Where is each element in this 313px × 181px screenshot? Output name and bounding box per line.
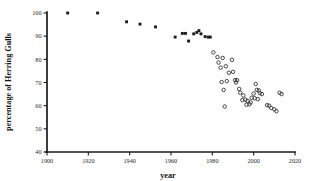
x-tick-label: 1940 (123, 157, 135, 164)
data-point-filled (154, 25, 157, 28)
x-tick-label: 1900 (41, 157, 53, 164)
data-point-filled (125, 20, 128, 23)
x-axis: 1900192019401960198020002020 (41, 152, 301, 164)
data-point-filled (204, 35, 207, 38)
data-series-layer (66, 12, 283, 113)
data-point-filled (66, 12, 69, 15)
series-recent-open-circles (212, 51, 284, 113)
data-point-open (222, 88, 226, 92)
y-tick-label: 100 (32, 9, 41, 16)
x-axis-title: year (160, 171, 176, 180)
data-point-open (216, 55, 220, 59)
x-tick-label: 1920 (82, 157, 94, 164)
data-point-open (219, 66, 223, 70)
data-point-filled (197, 29, 200, 32)
data-point-filled (184, 32, 187, 35)
y-tick-label: 80 (35, 56, 41, 63)
series-historical-filled-squares (66, 12, 212, 43)
y-tick-label: 60 (35, 102, 41, 109)
data-point-filled (192, 32, 195, 35)
data-point-filled (209, 36, 212, 39)
data-point-open (220, 80, 224, 84)
data-point-open (254, 82, 257, 86)
x-tick-label: 1980 (206, 157, 218, 164)
data-point-open (227, 71, 231, 75)
data-point-open (230, 58, 234, 62)
data-point-filled (96, 12, 99, 15)
data-point-open (237, 87, 241, 91)
data-point-open (223, 105, 227, 109)
data-point-open (242, 94, 246, 98)
x-tick-label: 1960 (165, 157, 177, 164)
chart-canvas: 405060708090100 190019201940196019802000… (0, 0, 313, 181)
data-point-open (225, 79, 229, 83)
data-point-open (224, 65, 228, 69)
data-point-filled (139, 23, 142, 26)
x-tick-label: 2020 (289, 157, 301, 164)
x-tick-label: 2000 (247, 157, 259, 164)
scatter-plot-figure: 405060708090100 190019201940196019802000… (0, 0, 313, 181)
y-tick-label: 50 (35, 125, 41, 132)
y-tick-label: 70 (35, 79, 41, 86)
y-axis: 405060708090100 (32, 9, 47, 155)
data-point-open (252, 92, 256, 96)
data-point-open (221, 56, 225, 60)
data-point-filled (181, 32, 184, 35)
y-tick-label: 90 (35, 32, 41, 39)
data-point-filled (200, 32, 203, 35)
y-axis-title: percentage of Herring Gulls (4, 33, 13, 131)
data-point-filled (187, 40, 190, 43)
data-point-open (212, 51, 216, 55)
data-point-open (238, 91, 242, 95)
y-tick-label: 40 (35, 148, 41, 155)
data-point-open (231, 70, 235, 74)
data-point-open (217, 61, 221, 65)
data-point-filled (174, 36, 177, 39)
